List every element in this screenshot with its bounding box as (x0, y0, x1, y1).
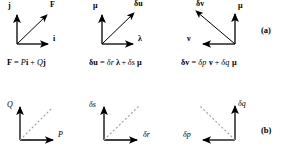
equation-force-plus: + (28, 58, 37, 67)
axis-mu-label: μ (93, 2, 98, 10)
dashed-guide-line (20, 108, 52, 140)
equation-delta-v-basis2: μ (229, 58, 236, 67)
equation-force: F=Pi+Qj (7, 58, 46, 67)
pq-axes-diagram (8, 100, 74, 150)
axis-delta-q-label: δq (238, 100, 246, 108)
dr-ds-axes-diagram (92, 100, 162, 150)
axis-P-label: P (58, 131, 63, 139)
equation-delta-u: δu=δrλ+δsμ (89, 58, 142, 67)
vector-delta-u-label: δu (134, 0, 143, 8)
vector-delta-v-arrow (196, 11, 235, 44)
panel-pq-component-axes: Q P (8, 100, 74, 150)
axis-lambda-label: λ (138, 35, 142, 43)
row-label-b: (b) (261, 125, 271, 135)
equation-delta-v: δv=δpν+δqμ (181, 58, 237, 67)
dashed-guide-line (104, 106, 139, 140)
equation-delta-u-equals: = (98, 58, 107, 67)
axis-i-label: i (53, 35, 55, 43)
vector-F-arrow (17, 15, 47, 44)
equation-force-basis2: j (43, 58, 46, 67)
panel-delta-u-decomposition: μ λ δu (93, 2, 155, 50)
panel-force-decomposition: j i F (6, 2, 68, 50)
axis-delta-s-label: δs (89, 101, 96, 109)
vector-F-label: F (50, 1, 55, 9)
equation-delta-v-basis1: ν (206, 58, 212, 67)
axis-j-label: j (8, 2, 11, 10)
delta-u-vector-diagram (93, 2, 155, 50)
equation-delta-v-equals: = (190, 58, 199, 67)
axis-delta-p-label: δp (183, 131, 191, 139)
figure-canvas: j i F F=Pi+Qj μ λ δu δu=δrλ+δsμ (0, 0, 287, 158)
vector-delta-u-arrow (102, 13, 134, 44)
panel-dp-dq-component-axes: δq δp (183, 100, 253, 150)
force-vector-diagram (6, 2, 68, 50)
panel-delta-v-decomposition: μ ν δv (183, 2, 249, 50)
equation-delta-v-lhs: δv (181, 58, 190, 67)
equation-delta-u-coef1: δr (107, 58, 114, 67)
axis-Q-label: Q (7, 101, 13, 109)
equation-delta-u-lhs: δu (89, 58, 98, 67)
equation-delta-u-basis2: μ (135, 58, 142, 67)
equation-delta-u-coef2: δs (128, 58, 135, 67)
dashed-guide-line (199, 105, 235, 140)
equation-force-equals: = (12, 58, 21, 67)
equation-delta-u-plus: + (120, 58, 128, 67)
axis-mu-label: μ (238, 2, 243, 10)
row-label-a: (a) (261, 25, 271, 35)
panel-dr-ds-component-axes: δs δr (92, 100, 162, 150)
axis-delta-r-label: δr (143, 131, 150, 139)
axis-nu-label: ν (187, 35, 191, 43)
vector-delta-v-label: δv (196, 0, 204, 8)
